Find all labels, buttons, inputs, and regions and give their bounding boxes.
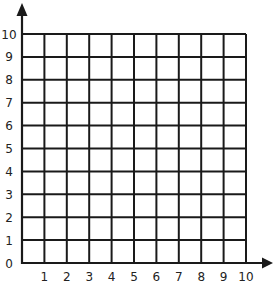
y-tick-label: 8 [5, 73, 13, 87]
x-tick-label: 4 [108, 270, 116, 283]
y-tick-label: 0 [5, 257, 13, 271]
x-axis-arrow-icon [262, 258, 273, 269]
x-tick-label: 10 [238, 270, 253, 283]
x-tick-label: 6 [153, 270, 161, 283]
x-tick-label: 5 [130, 270, 138, 283]
y-tick-label: 1 [5, 234, 13, 248]
coordinate-grid: 012345678910 12345678910 [0, 0, 279, 283]
x-tick-label: 8 [197, 270, 205, 283]
y-axis-labels: 012345678910 [1, 28, 16, 271]
x-tick-label: 9 [220, 270, 228, 283]
x-tick-label: 3 [85, 270, 93, 283]
y-tick-label: 9 [5, 50, 13, 64]
grid-lines [22, 34, 246, 263]
y-axis-arrow-icon [17, 3, 28, 16]
x-tick-label: 2 [63, 270, 71, 283]
y-tick-label: 4 [5, 165, 13, 179]
x-axis-labels: 12345678910 [41, 270, 254, 283]
y-tick-label: 3 [5, 188, 13, 202]
x-tick-label: 7 [175, 270, 183, 283]
x-axis [21, 258, 273, 269]
y-tick-label: 5 [5, 142, 13, 156]
x-tick-label: 1 [41, 270, 49, 283]
y-tick-label: 6 [5, 119, 13, 133]
y-tick-label: 2 [5, 211, 13, 225]
y-tick-label: 10 [1, 28, 16, 42]
y-axis [17, 3, 28, 264]
y-tick-label: 7 [5, 96, 13, 110]
